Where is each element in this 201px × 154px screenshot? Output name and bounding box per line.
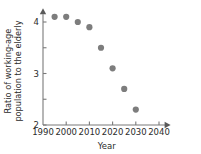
x-axis-tick-label: 2020 [102, 127, 124, 137]
y-axis-tick-label: 4 [34, 17, 39, 27]
data-point [86, 24, 92, 30]
scatter-plot: 199020002010202020302040432YearRatio of … [0, 0, 201, 154]
x-axis-tick-label: 2010 [79, 127, 101, 137]
data-point [121, 86, 127, 92]
data-point [75, 19, 81, 25]
data-point [63, 14, 69, 20]
y-axis-arrow-icon [40, 8, 46, 14]
y-axis-tick-label: 2 [34, 120, 39, 130]
data-point [52, 14, 58, 20]
x-axis-tick-label: 2000 [55, 127, 77, 137]
y-axis-tick-label: 3 [34, 69, 39, 79]
x-axis-tick-label: 2030 [125, 127, 147, 137]
x-axis-title: Year [97, 141, 117, 151]
x-axis-tick-label: 2040 [148, 127, 170, 137]
y-axis-title-line: population to the elderly [13, 20, 23, 121]
y-axis-title-line: Ratio of working-age [3, 29, 13, 114]
data-point [110, 65, 116, 71]
y-axis-title: Ratio of working-agepopulation to the el… [3, 20, 23, 121]
data-point [98, 45, 104, 51]
chart-container: 199020002010202020302040432YearRatio of … [0, 0, 201, 154]
data-point [133, 106, 139, 112]
